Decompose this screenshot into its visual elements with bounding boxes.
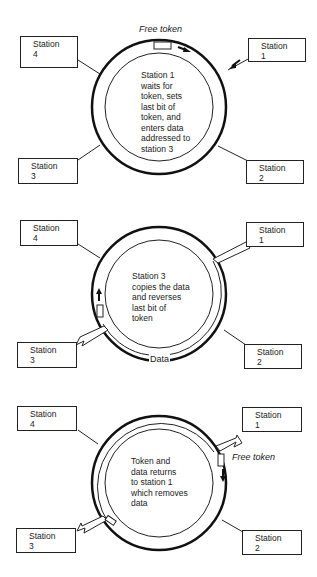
station-number: 3 [29, 541, 75, 551]
station-label: Station [31, 161, 77, 171]
text-line: Station 1 [141, 70, 190, 81]
text-line: station 3 [141, 144, 190, 155]
station-number: 1 [259, 235, 303, 245]
station-2-box: Station 2 [242, 530, 302, 555]
text-line: token [132, 313, 190, 324]
station-1-box: Station 1 [242, 407, 302, 432]
station-number: 4 [30, 419, 76, 429]
data-label: Data [149, 354, 170, 364]
text-line: token, sets [141, 91, 190, 102]
station-3-box: Station 3 [18, 158, 78, 184]
token-icon [218, 454, 224, 466]
token-ring-step-3: Free token Station 4 Station 1 Station 3… [0, 380, 317, 577]
text-line: data [131, 498, 188, 509]
station-label: Station [30, 409, 76, 419]
text-line: Token and [131, 456, 188, 467]
text-line: data returns [131, 467, 188, 478]
station-2-box: Station 2 [244, 344, 302, 369]
step-2-description: Station 3 copies the data and reverses l… [132, 271, 190, 324]
station-number: 3 [31, 171, 77, 181]
text-line: which removes [131, 488, 188, 499]
station-3-box: Station 3 [16, 528, 76, 553]
station-label: Station [255, 533, 301, 543]
station-number: 3 [30, 355, 76, 365]
station-label: Station [30, 345, 76, 355]
station-4-box: Station 4 [17, 406, 77, 431]
station-1-box: Station 1 [248, 38, 306, 62]
text-line: token, and [141, 112, 190, 123]
station-2-box: Station 2 [246, 160, 304, 184]
station-number: 1 [261, 51, 305, 61]
text-line: addressed to [141, 133, 190, 144]
station-3-box: Station 3 [17, 342, 77, 368]
station-1-box: Station 1 [246, 222, 304, 247]
text-line: enters data [141, 123, 190, 134]
text-line: Station 3 [132, 271, 190, 282]
free-token-label: Free token [232, 452, 275, 462]
station-4-box: Station 4 [20, 220, 78, 246]
text-line: last bit of [132, 303, 190, 314]
station-label: Station [33, 39, 77, 49]
station-label: Station [257, 347, 301, 357]
station-4-box: Station 4 [20, 36, 78, 68]
token-ring-step-1: Free token Station 4 Station 1 Station 3… [0, 0, 317, 190]
token-icon [97, 305, 103, 317]
station-number: 4 [33, 49, 77, 59]
station-label: Station [33, 223, 77, 233]
token-ring-step-2: Data Station 4 Station 1 Station 3 Stati… [0, 190, 317, 380]
step-1-description: Station 1 waits for token, sets last bit… [141, 70, 190, 154]
text-line: and reverses [132, 292, 190, 303]
station-number: 2 [259, 173, 303, 183]
token-icon [154, 42, 171, 49]
free-token-label: Free token [139, 24, 182, 34]
text-line: to station 1 [131, 477, 188, 488]
station-label: Station [259, 225, 303, 235]
text-line: waits for [141, 81, 190, 92]
arrow-icon [96, 288, 102, 294]
step-3-description: Token and data returns to station 1 whic… [131, 456, 188, 509]
station-number: 4 [33, 233, 77, 243]
text-line: last bit of [141, 102, 190, 113]
station-number: 1 [255, 420, 301, 430]
station-label: Station [261, 41, 305, 51]
station-number: 2 [255, 543, 301, 553]
station-number: 2 [257, 357, 301, 367]
station-label: Station [29, 531, 75, 541]
text-line: copies the data [132, 282, 190, 293]
station-label: Station [255, 410, 301, 420]
station-label: Station [259, 163, 303, 173]
